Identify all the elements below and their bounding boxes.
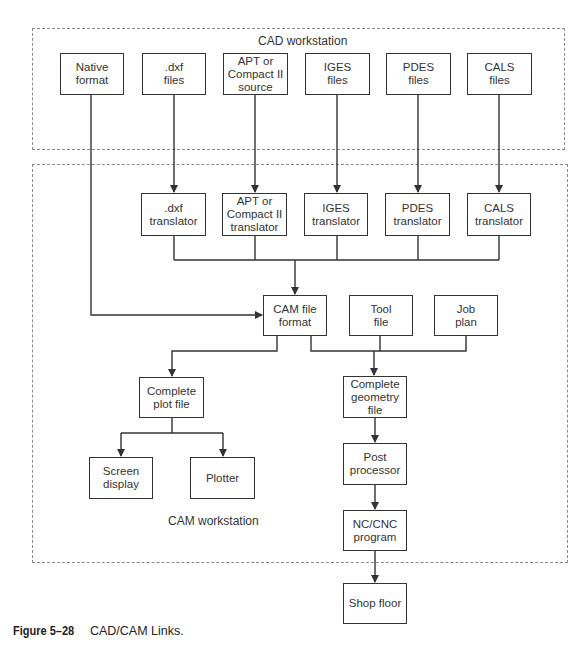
- iges-translator-node: IGES translator: [304, 193, 368, 236]
- pdes-files-node: PDES files: [386, 53, 451, 95]
- job-plan-node: Job plan: [434, 295, 498, 336]
- dxf-translator-node: .dxf translator: [141, 193, 206, 236]
- dxf-files-node: .dxf files: [142, 53, 206, 95]
- iges-files-node: IGES files: [305, 53, 370, 95]
- screen-display-node: Screen display: [89, 457, 153, 499]
- apt-compact-source-node: APT or Compact II source: [223, 53, 288, 95]
- cam-file-format-node: CAM file format: [263, 295, 327, 336]
- apt-compact-translator-node: APT or Compact II translator: [222, 193, 287, 236]
- native-format-node: Native format: [60, 53, 124, 95]
- cals-files-node: CALS files: [467, 53, 532, 95]
- shop-floor-node: Shop floor: [343, 583, 407, 624]
- figure-caption: Figure 5–28 CAD/CAM Links.: [13, 624, 184, 638]
- plotter-node: Plotter: [190, 457, 255, 499]
- nc-cnc-program-node: NC/CNC program: [343, 510, 407, 551]
- tool-file-node: Tool file: [349, 295, 413, 336]
- figure-number: Figure 5–28: [13, 624, 74, 638]
- figure-title: CAD/CAM Links.: [90, 624, 184, 638]
- complete-plot-file-node: Complete plot file: [139, 377, 204, 418]
- complete-geometry-file-node: Complete geometry file: [343, 376, 407, 418]
- post-processor-node: Post processor: [343, 443, 407, 485]
- cals-translator-node: CALS translator: [467, 193, 531, 236]
- pdes-translator-node: PDES translator: [385, 193, 450, 236]
